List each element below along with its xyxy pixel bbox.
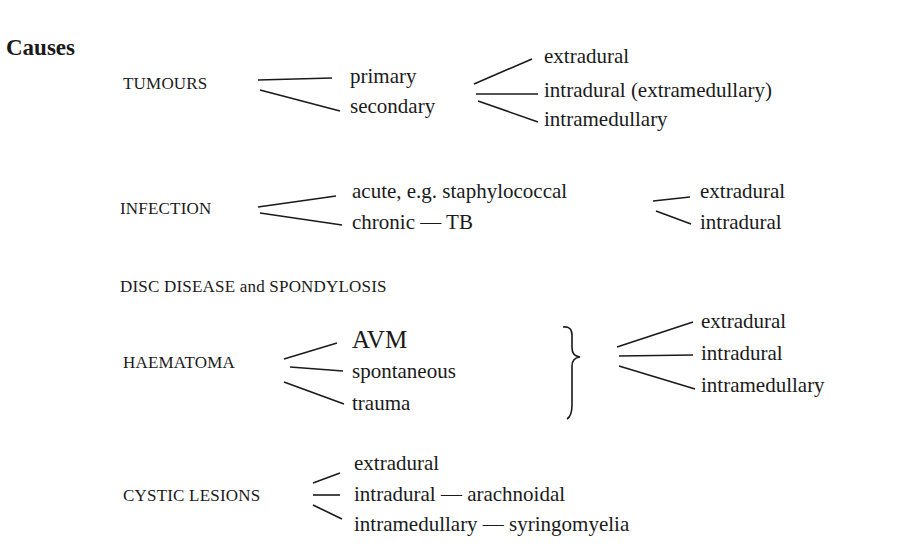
category-cystic-lesions: CYSTIC LESIONS (123, 487, 260, 504)
infection-type-chronic: chronic — TB (352, 212, 473, 233)
haematoma-site-intradural: intradural (701, 343, 783, 364)
tumours-type-secondary: secondary (350, 96, 435, 117)
connector-haematoma-intradural (619, 355, 693, 356)
haematoma-type-spontaneous: spontaneous (352, 361, 456, 382)
cystic-type-intradural: intradural — arachnoidal (354, 484, 565, 505)
connector-infection-acute (258, 196, 336, 207)
connector-tumours-extradural (474, 59, 532, 84)
connector-infection-chronic (260, 213, 342, 225)
cystic-type-extradural: extradural (354, 453, 439, 474)
infection-site-extradural: extradural (700, 181, 785, 202)
connector-tumours-primary (258, 78, 332, 80)
haematoma-type-trauma: trauma (352, 393, 410, 414)
connector-cystic-extradural (313, 473, 340, 483)
cystic-type-intramedullary: intramedullary — syringomyelia (354, 514, 629, 535)
connector-tumours-intramedullary (478, 101, 538, 122)
category-disc-disease: DISC DISEASE and SPONDYLOSIS (120, 278, 387, 295)
heading: Causes (6, 36, 75, 59)
connector-infection-intradural (656, 211, 691, 224)
connector-haematoma-intramedullary (619, 366, 695, 389)
haematoma-type-avm: AVM (352, 327, 407, 352)
haematoma-site-extradural: extradural (701, 311, 786, 332)
category-tumours: TUMOURS (123, 75, 208, 92)
connector-haematoma-trauma (284, 382, 344, 404)
infection-type-acute: acute, e.g. staphylococcal (352, 181, 567, 202)
connector-haematoma-spontaneous (290, 367, 343, 371)
brace (563, 327, 580, 419)
tumours-site-intramedullary: intramedullary (544, 109, 668, 130)
tumours-site-intradural: intradural (extramedullary) (544, 80, 772, 101)
connector-haematoma-avm (284, 343, 337, 359)
connector-infection-extradural (653, 197, 690, 201)
connector-tumours-secondary (260, 90, 340, 111)
tumours-type-primary: primary (350, 66, 416, 87)
connector-cystic-intramedullary (313, 505, 342, 519)
category-infection: INFECTION (120, 200, 212, 217)
haematoma-site-intramedullary: intramedullary (701, 375, 825, 396)
category-haematoma: HAEMATOMA (123, 354, 235, 371)
connector-haematoma-extradural (617, 322, 693, 347)
tumours-site-extradural: extradural (544, 46, 629, 67)
infection-site-intradural: intradural (700, 212, 782, 233)
